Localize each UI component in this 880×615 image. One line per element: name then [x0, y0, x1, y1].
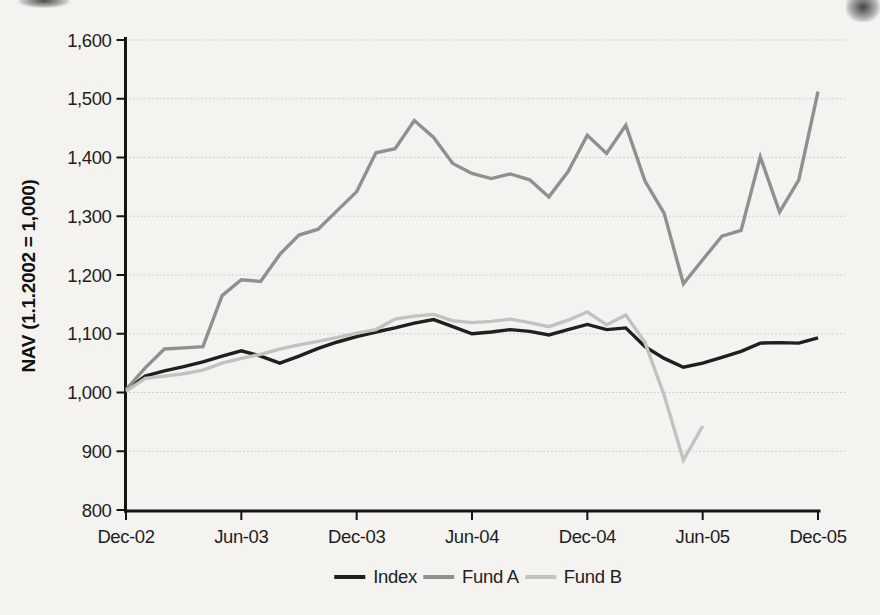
x-tick-label: Dec-02: [97, 526, 154, 547]
y-tick-label: 1,000: [67, 382, 111, 403]
x-tick-label: Jun-03: [214, 526, 268, 547]
y-axis-title: NAV (1.1.2002 = 1,000): [18, 179, 40, 372]
legend-label-fund-b: Fund B: [564, 566, 622, 588]
legend-item-fund-a: Fund A: [423, 566, 519, 588]
fund-a-line-swatch-icon: [423, 575, 454, 579]
y-tick-label: 1,300: [67, 206, 111, 227]
legend-item-index: Index: [334, 566, 417, 588]
legend-label-fund-a: Fund A: [462, 566, 519, 588]
y-tick-label: 1,400: [67, 147, 111, 168]
y-tick-label: 1,100: [67, 323, 111, 344]
fund-b-line-swatch-icon: [525, 575, 556, 579]
x-tick-label: Dec-04: [559, 526, 616, 547]
legend-label-index: Index: [373, 566, 417, 588]
series-line-index: [126, 320, 818, 391]
x-tick-label: Jun-05: [676, 526, 730, 547]
legend: Index Fund A Fund B: [334, 566, 621, 588]
y-tick-label: 800: [82, 500, 112, 521]
y-tick-label: 1,200: [67, 265, 111, 286]
y-tick-label: 900: [82, 441, 112, 462]
legend-item-fund-b: Fund B: [525, 566, 622, 588]
y-tick-label: 1,500: [67, 88, 111, 109]
series-line-fund-a: [126, 92, 818, 390]
x-tick-label: Dec-05: [789, 526, 846, 547]
index-line-swatch-icon: [334, 575, 365, 579]
x-tick-label: Jun-04: [445, 526, 499, 547]
y-tick-label: 1,600: [67, 30, 111, 51]
x-tick-label: Dec-03: [328, 526, 385, 547]
